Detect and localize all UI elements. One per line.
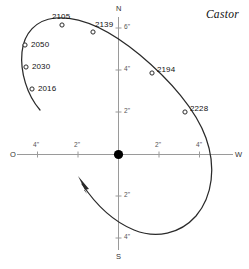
tick-label-east-4: 4" [33, 142, 39, 149]
epoch-label-2016: 2016 [38, 85, 56, 93]
axis-label-east: O [10, 151, 16, 159]
tick-label-east-2: 2" [74, 142, 80, 149]
epoch-label-2228: 2228 [190, 105, 208, 113]
epoch-label-2194: 2194 [157, 66, 175, 74]
primary-star-dot [114, 150, 123, 159]
epoch-label-2030: 2030 [32, 63, 50, 71]
epoch-marker-2228 [183, 110, 187, 114]
tick-label-north-2: 2" [124, 108, 130, 115]
epoch-marker-2050 [23, 43, 27, 47]
tick-label-west-4: 4" [196, 142, 202, 149]
tick-label-south-4: 4" [124, 234, 130, 241]
castor-orbit-figure: Castor O W N S 4" 2" 2" 4" 6" 4" 2" 2" 4… [0, 0, 249, 269]
epoch-marker-2194 [150, 71, 154, 75]
epoch-label-2050: 2050 [31, 41, 49, 49]
tick-label-south-2: 2" [124, 192, 130, 199]
tick-label-north-6: 6" [124, 24, 130, 31]
epoch-marker-2105 [60, 23, 64, 27]
epoch-label-2139: 2139 [95, 21, 113, 29]
tick-label-north-4: 4" [124, 66, 130, 73]
epoch-marker-2030 [24, 65, 28, 69]
axis-label-west: W [235, 151, 242, 159]
epoch-label-2105: 2105 [52, 13, 70, 21]
page-title: Castor [206, 8, 239, 20]
epoch-marker-2016 [30, 87, 34, 91]
orbit-curve [22, 18, 212, 235]
epoch-marker-2139 [91, 30, 95, 34]
tick-label-west-2: 2" [155, 142, 161, 149]
axis-label-south: S [116, 253, 121, 261]
axis-label-north: N [116, 5, 122, 13]
